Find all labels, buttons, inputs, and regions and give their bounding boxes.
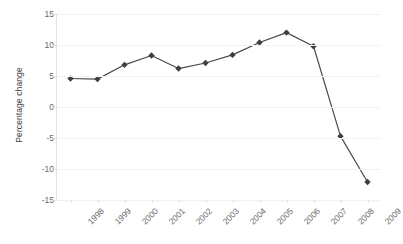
x-axis-tick-mark [179, 200, 180, 203]
y-axis-tick-mark [53, 76, 57, 77]
y-axis-tick-mark [53, 14, 57, 15]
x-axis-tick-label: 2009 [382, 206, 402, 226]
x-axis-tick-mark [233, 200, 234, 203]
data-point-marker [364, 179, 370, 185]
y-axis-title-label: Percentage change [14, 67, 24, 142]
y-axis-tick-mark [53, 107, 57, 108]
y-axis-tick-mark [53, 138, 57, 139]
x-axis-tick-mark [341, 200, 342, 203]
data-point-marker [121, 62, 127, 68]
x-axis-tick-label: 1998 [85, 206, 105, 226]
data-point-marker [283, 29, 289, 35]
y-axis-tick-mark [53, 45, 57, 46]
data-point-marker [310, 43, 316, 49]
x-axis-tick-mark [368, 200, 369, 203]
y-axis-tick-labels: 151050-5-10-15 [30, 0, 54, 210]
x-axis-tick-mark [152, 200, 153, 203]
x-axis-tick-labels: 1998199920002001200220032004200520062007… [57, 202, 381, 244]
x-axis-tick-mark [260, 200, 261, 203]
x-axis-tick-label: 2005 [274, 206, 294, 226]
x-axis-tick-label: 2002 [193, 206, 213, 226]
gridline [57, 107, 381, 108]
x-axis-tick-mark [287, 200, 288, 203]
plot-area [57, 14, 381, 200]
x-axis-tick-mark [71, 200, 72, 203]
x-axis-tick-mark [125, 200, 126, 203]
x-axis-tick-label: 2006 [301, 206, 321, 226]
gridline [57, 14, 381, 15]
x-axis-tick-label: 2001 [166, 206, 186, 226]
gridline [57, 169, 381, 170]
data-point-marker [175, 65, 181, 71]
x-axis-tick-mark [206, 200, 207, 203]
x-axis-tick-label: 2000 [139, 206, 159, 226]
gridline [57, 200, 381, 201]
x-axis-tick-mark [314, 200, 315, 203]
gridline [57, 76, 381, 77]
x-axis-tick-label: 1999 [112, 206, 132, 226]
x-axis-tick-mark [98, 200, 99, 203]
data-point-marker [148, 52, 154, 58]
x-axis-tick-label: 2004 [247, 206, 267, 226]
y-axis-tick-mark [53, 200, 57, 201]
gridline [57, 45, 381, 46]
data-point-marker [202, 60, 208, 66]
x-axis-tick-label: 2003 [220, 206, 240, 226]
gridline [57, 138, 381, 139]
data-point-marker [229, 52, 235, 58]
x-axis-tick-label: 2008 [355, 206, 375, 226]
y-axis-tick-mark [53, 169, 57, 170]
x-axis-tick-label: 2007 [328, 206, 348, 226]
